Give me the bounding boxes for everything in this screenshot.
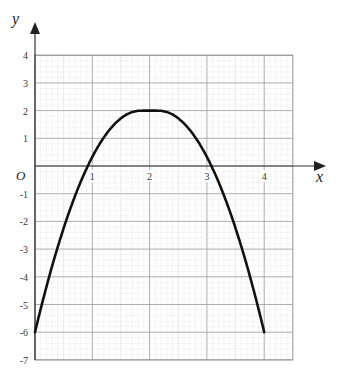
y-tick-label: -7 (20, 355, 28, 366)
y-tick-label: 3 (23, 78, 28, 89)
parabola-chart: 12344321-1-2-3-4-5-6-7 x y O (0, 0, 341, 384)
y-axis-arrow-icon (30, 22, 40, 34)
x-tick-label: 3 (204, 171, 209, 182)
x-tick-label: 1 (90, 171, 95, 182)
y-tick-label: -2 (20, 216, 28, 227)
y-tick-label: 4 (23, 50, 28, 61)
origin-label: O (16, 168, 26, 183)
y-tick-label: -6 (20, 327, 28, 338)
x-axis-label: x (315, 168, 323, 185)
y-tick-label: 2 (23, 106, 28, 117)
x-tick-label: 2 (147, 171, 152, 182)
tick-labels: 12344321-1-2-3-4-5-6-7 (20, 50, 270, 366)
y-axis-label: y (10, 10, 20, 28)
y-tick-label: 1 (23, 133, 28, 144)
x-tick-label: 4 (262, 171, 267, 182)
y-tick-label: -5 (20, 300, 28, 311)
y-tick-label: -1 (20, 189, 28, 200)
grid (35, 55, 293, 360)
y-tick-label: -4 (20, 272, 28, 283)
y-tick-label: -3 (20, 244, 28, 255)
